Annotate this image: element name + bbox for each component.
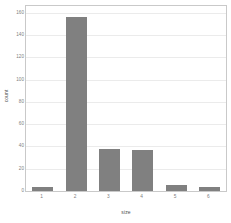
gridline	[26, 191, 226, 192]
y-axis-tick-label: 160	[16, 9, 24, 14]
bar	[199, 187, 220, 191]
gridline	[26, 102, 226, 103]
y-axis-tick-label: 40	[19, 143, 24, 148]
bar	[166, 185, 187, 191]
gridline	[26, 146, 226, 147]
x-axis-tick-label: 6	[207, 194, 210, 199]
bar	[32, 187, 53, 191]
x-axis-tick-label: 5	[174, 194, 177, 199]
y-axis-tick-label: 0	[21, 188, 24, 193]
bar-chart-figure: count 020406080100120140160 123456 size	[0, 0, 231, 223]
y-axis-title: count	[0, 0, 12, 192]
y-axis-tick-label: 100	[16, 76, 24, 81]
y-axis-tick-label: 20	[19, 165, 24, 170]
gridline	[26, 169, 226, 170]
bar	[99, 149, 120, 191]
x-axis-tick-labels: 123456	[25, 194, 227, 206]
y-axis-tick-label: 120	[16, 54, 24, 59]
gridline	[26, 35, 226, 36]
y-axis-tick-label: 140	[16, 31, 24, 36]
y-axis-tick-label: 80	[19, 98, 24, 103]
x-axis-tick-label: 3	[107, 194, 110, 199]
bar	[132, 150, 153, 191]
y-axis-title-text: count	[3, 90, 9, 103]
plot-panel	[25, 5, 227, 192]
gridline	[26, 13, 226, 14]
x-axis-tick-label: 4	[140, 194, 143, 199]
x-axis-tick-label: 1	[40, 194, 43, 199]
gridline	[26, 57, 226, 58]
y-axis-tick-label: 60	[19, 121, 24, 126]
gridline	[26, 80, 226, 81]
x-axis-title: size	[25, 209, 227, 215]
y-axis-tick-labels: 020406080100120140160	[11, 0, 24, 223]
x-axis-tick-label: 2	[74, 194, 77, 199]
gridline	[26, 124, 226, 125]
bar	[66, 17, 87, 191]
